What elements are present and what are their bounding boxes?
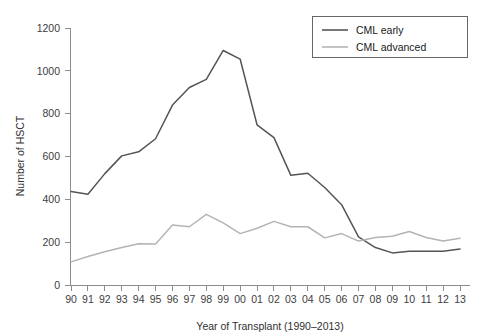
x-tick-label: 91	[82, 293, 94, 305]
y-tick-label: 600	[42, 150, 60, 162]
legend-label-cml-advanced: CML advanced	[356, 41, 426, 53]
x-tick-label: 98	[200, 293, 212, 305]
x-tick-label: 08	[370, 293, 382, 305]
y-tick-label: 1000	[37, 65, 61, 77]
y-tick-label: 400	[42, 193, 60, 205]
x-axis-ticks: 9091929394959697989900010203040506070809…	[65, 286, 466, 306]
data-series-group	[71, 50, 460, 261]
x-tick-label: 03	[285, 293, 297, 305]
x-tick-label: 09	[387, 293, 399, 305]
x-tick-label: 02	[268, 293, 280, 305]
x-tick-label: 06	[336, 293, 348, 305]
x-tick-label: 96	[167, 293, 179, 305]
x-tick-label: 90	[65, 293, 77, 305]
series-line-cml-early	[71, 50, 460, 252]
x-tick-label: 04	[302, 293, 314, 305]
x-tick-label: 99	[217, 293, 229, 305]
y-tick-label: 800	[42, 107, 60, 119]
chart-legend: CML earlyCML advanced	[313, 17, 468, 58]
x-tick-label: 92	[99, 293, 111, 305]
series-line-cml-advanced	[71, 214, 460, 262]
y-axis-title: Number of HSCT	[14, 115, 26, 196]
y-tick-label: 0	[54, 279, 60, 291]
x-tick-label: 10	[403, 293, 415, 305]
x-tick-label: 05	[319, 293, 331, 305]
chart-figure: 020040060080010001200 909192939495969798…	[0, 0, 478, 336]
x-tick-label: 11	[421, 293, 432, 305]
x-tick-label: 12	[437, 293, 449, 305]
y-axis-ticks: 020040060080010001200	[37, 22, 71, 291]
x-tick-label: 07	[353, 293, 365, 305]
x-tick-label: 94	[133, 293, 145, 305]
x-tick-label: 95	[150, 293, 162, 305]
y-tick-label: 1200	[37, 22, 61, 34]
x-tick-label: 97	[184, 293, 196, 305]
x-tick-label: 93	[116, 293, 128, 305]
y-tick-label: 200	[42, 236, 60, 248]
x-tick-label: 01	[251, 293, 263, 305]
line-chart-plot: 020040060080010001200 909192939495969798…	[0, 0, 478, 336]
x-axis-title: Year of Transplant (1990–2013)	[196, 320, 343, 332]
x-tick-label: 00	[234, 293, 246, 305]
axis-lines	[71, 28, 471, 286]
x-tick-label: 13	[454, 293, 466, 305]
legend-label-cml-early: CML early	[356, 24, 404, 36]
